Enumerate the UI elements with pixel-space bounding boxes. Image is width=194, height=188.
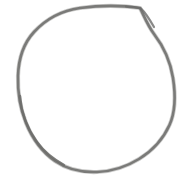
sketch-canvas [0,0,194,188]
circle-sketch-svg [0,0,194,188]
canvas-background [0,0,194,188]
